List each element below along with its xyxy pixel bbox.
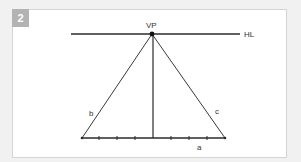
c-label: c <box>215 107 219 116</box>
line-b <box>82 34 152 138</box>
vp-label: VP <box>146 21 157 30</box>
b-label: b <box>89 109 94 118</box>
line-c <box>152 34 225 138</box>
baseline-left-endpoint <box>81 137 84 140</box>
perspective-diagram: VP HL b c a <box>0 0 301 162</box>
figure-number-badge: 2 <box>12 9 29 27</box>
vanishing-point-dot <box>150 32 155 37</box>
baseline-right-endpoint <box>224 137 227 140</box>
hl-label: HL <box>244 30 255 39</box>
a-label: a <box>197 143 202 152</box>
